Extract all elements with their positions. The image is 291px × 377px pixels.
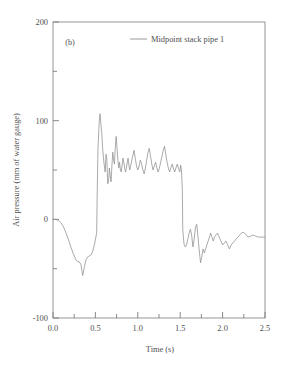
x-tick-label: 0.0 [48, 324, 58, 333]
legend-label-0: Midpoint stack pipe 1 [151, 35, 224, 44]
y-axis-title: Air pressure (mm of water gauge) [12, 113, 21, 227]
x-tick-label: 1.0 [133, 324, 143, 333]
y-tick-label: 0 [44, 215, 48, 224]
x-tick-label: 0.5 [90, 324, 100, 333]
figure-container: -1000100200 0.00.51.01.52.02.5 (b) Midpo… [0, 0, 291, 377]
y-tick-label: 200 [35, 18, 48, 27]
chart-plot: -1000100200 0.00.51.01.52.02.5 (b) Midpo… [0, 0, 291, 377]
x-tick-label: 2.0 [217, 324, 227, 333]
x-axis-title: Time (s) [146, 345, 175, 354]
y-tick-label: 100 [35, 117, 48, 126]
y-tick-label: -100 [33, 314, 48, 323]
panel-label: (b) [65, 38, 75, 47]
x-tick-label: 1.5 [175, 324, 185, 333]
x-tick-label: 2.5 [260, 324, 270, 333]
